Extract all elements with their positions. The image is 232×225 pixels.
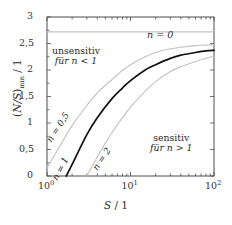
x-tick-label-100: 102: [205, 180, 221, 192]
y-tick-label-1: 1: [27, 117, 33, 128]
y-axis-title-close: ): [11, 89, 23, 93]
x-tick-exponent-10: 1: [134, 179, 138, 187]
y-tick-label-0-5: 0,5: [19, 144, 34, 155]
y-tick-label-2: 2: [27, 64, 33, 75]
x-tick-mantissa-100: 10: [205, 180, 217, 191]
curve-label-n0: n = 0: [147, 30, 173, 41]
y-axis-title-unit: 1: [11, 59, 23, 66]
x-tick-exponent-1: 0: [50, 179, 54, 187]
annotation-unsensitive-line2: für n < 1: [52, 56, 100, 66]
y-axis-title-open: (: [11, 113, 23, 117]
curve-n-1: [66, 50, 214, 176]
annotation-sensitive-region: sensitiv für n > 1: [150, 133, 192, 154]
x-axis-title: S / 1: [0, 200, 232, 212]
x-tick-label-10: 101: [122, 180, 138, 192]
annotation-unsensitive-region: unsensitiv für n < 1: [52, 46, 100, 67]
y-tick-label-0: 0: [27, 170, 33, 181]
y-axis-title-sep: /: [11, 66, 23, 76]
y-axis-title-var: N/S: [11, 93, 23, 113]
x-axis-title-sep: /: [111, 199, 121, 211]
x-tick-mantissa-1: 10: [38, 180, 50, 191]
y-axis-title-subscript: min: [18, 76, 26, 89]
x-tick-label-1: 100: [38, 180, 54, 192]
x-axis-title-unit: 1: [121, 199, 128, 211]
plot-canvas: [0, 0, 232, 225]
x-tick-mantissa-10: 10: [122, 180, 134, 191]
y-axis-title-wrapper: (N/S)min / 1: [6, 38, 26, 138]
y-axis-title: (N/S)min / 1: [11, 59, 23, 117]
figure-container: 3 2,5 2 1,5 1 0,5 0 100 101 102 S / 1 (N…: [0, 0, 232, 225]
y-tick-label-3: 3: [27, 11, 33, 22]
annotation-sensitive-line2: für n > 1: [150, 143, 192, 153]
x-tick-exponent-100: 2: [217, 179, 221, 187]
